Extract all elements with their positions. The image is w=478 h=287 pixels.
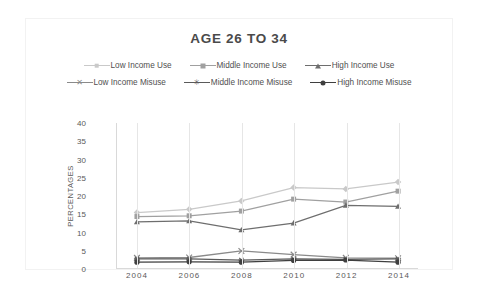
series-line [137,260,398,262]
series-group [134,202,401,232]
grid-line [399,123,400,268]
x-tick-label: 2006 [178,271,200,280]
legend-label: Low Income Use [111,61,172,70]
grid-line [137,123,138,268]
legend-label: High Income Use [332,61,395,70]
plot-wrapper: 200420062008201020122014 051015202530354… [88,123,418,269]
y-tick-label: 5 [46,246,86,255]
series-line [137,191,398,216]
series-line [137,182,398,212]
plot-area: 200420062008201020122014 [116,123,418,269]
x-tick-label: 2014 [388,271,410,280]
legend-marker-square-icon [190,61,216,70]
chart-title: AGE 26 TO 34 [26,31,452,46]
legend-row: ✕Low Income Misuse✳Middle Income MisuseH… [26,74,452,91]
legend-label: High Income Misuse [337,78,411,87]
legend-marker-x-icon: ✕ [67,78,93,87]
legend-marker-circle-icon [310,78,336,87]
y-tick-label: 15 [46,210,86,219]
legend-item-middle-income-use[interactable]: Middle Income Use [190,61,287,70]
legend-marker-diamond-icon [84,61,110,70]
legend-row: Low Income UseMiddle Income UseHigh Inco… [26,57,452,74]
series-line [137,259,398,260]
grid-line [189,123,190,268]
y-tick-label: 20 [46,192,86,201]
series-lines [117,123,418,268]
legend-item-high-income-misuse[interactable]: High Income Misuse [310,78,411,87]
legend-label: Middle Income Use [217,61,287,70]
y-tick-label: 30 [46,155,86,164]
legend-label: Middle Income Misuse [211,78,292,87]
chart-frame: AGE 26 TO 34 Low Income UseMiddle Income… [25,18,453,270]
legend-item-high-income-use[interactable]: High Income Use [305,61,395,70]
x-tick-label: 2004 [126,271,148,280]
x-tick-label: 2012 [336,271,358,280]
legend-label: Low Income Misuse [94,78,166,87]
y-tick-label: 10 [46,228,86,237]
y-tick-label: 35 [46,137,86,146]
x-tick-label: 2010 [283,271,305,280]
y-tick-label: 0 [46,265,86,274]
legend-marker-star-icon: ✳ [184,78,210,87]
legend-item-low-income-use[interactable]: Low Income Use [84,61,172,70]
chart-card: AGE 26 TO 34 Low Income UseMiddle Income… [0,0,478,287]
chart-legend: Low Income UseMiddle Income UseHigh Inco… [26,57,452,91]
legend-item-low-income-misuse[interactable]: ✕Low Income Misuse [67,78,166,87]
y-tick-label: 25 [46,173,86,182]
series-group [134,179,402,216]
grid-line [242,123,243,268]
series-line [137,205,398,230]
legend-item-middle-income-misuse[interactable]: ✳Middle Income Misuse [184,78,292,87]
x-tick-label: 2008 [231,271,253,280]
legend-marker-triangle-icon [305,61,331,70]
grid-line [294,123,295,268]
grid-line [347,123,348,268]
series-group [134,189,400,219]
series-line [137,251,398,258]
y-tick-label: 40 [46,119,86,128]
